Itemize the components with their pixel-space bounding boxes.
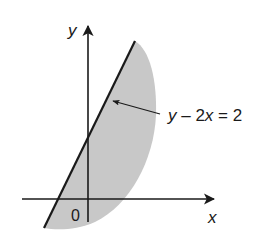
diagram-canvas: y x 0 y – 2x = 2 (0, 0, 268, 238)
origin-label: 0 (71, 207, 80, 224)
y-axis-label: y (67, 21, 78, 40)
equation-minus-two: – 2 (177, 106, 205, 125)
equation-label: y – 2x = 2 (167, 106, 242, 125)
equation-rhs: = 2 (213, 106, 242, 125)
equation-x: x (204, 106, 214, 125)
x-axis-label: x (207, 208, 217, 227)
shaded-region (44, 41, 156, 229)
